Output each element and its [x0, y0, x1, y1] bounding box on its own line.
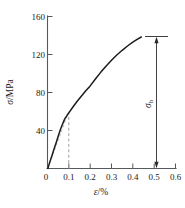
sigma-b-label-group: σb: [143, 100, 154, 108]
stress-strain-chart: 160 120 80 40 0 0.1 0.2 0.3 0.4 0.5 0.6: [0, 0, 185, 208]
y-tick-label-120: 120: [32, 50, 46, 60]
x-axis-title-group: ε/%: [94, 187, 108, 197]
x-tick-label-0-4: 0.4: [127, 172, 139, 182]
x-tick-label-0-6: 0.6: [170, 172, 182, 182]
y-tick-label-160: 160: [32, 12, 46, 22]
x-axis-title-unit: /%: [98, 187, 109, 197]
x-tick-label-0-5: 0.5: [149, 172, 161, 182]
y-tick-label-0: 0: [44, 172, 49, 182]
y-tick-label-80: 80: [36, 88, 46, 98]
x-tick-label-0-1: 0.1: [63, 172, 74, 182]
chart-canvas: 160 120 80 40 0 0.1 0.2 0.3 0.4 0.5 0.6: [0, 0, 185, 208]
y-tick-marks: [48, 17, 53, 169]
y-tick-label-40: 40: [36, 126, 46, 136]
x-tick-labels: 0.1 0.2 0.3 0.4 0.5 0.6: [63, 172, 181, 182]
x-tick-label-0-2: 0.2: [85, 172, 96, 182]
svg-text:σ/MPa: σ/MPa: [5, 79, 15, 105]
x-tick-label-0-3: 0.3: [106, 172, 118, 182]
x-tick-marks: [69, 164, 176, 169]
y-axis-title-group: σ/MPa: [5, 79, 15, 105]
stress-strain-curve: [48, 37, 142, 168]
svg-text:σb: σb: [143, 100, 154, 108]
y-axis-title-unit: /MPa: [5, 79, 15, 100]
svg-text:ε/%: ε/%: [94, 187, 108, 197]
y-tick-labels: 160 120 80 40 0: [32, 12, 49, 182]
sigma-b-label-subscript: b: [147, 100, 154, 103]
sigma-b-arrowhead-down: [154, 162, 158, 168]
sigma-b-arrowhead-up: [154, 37, 158, 43]
